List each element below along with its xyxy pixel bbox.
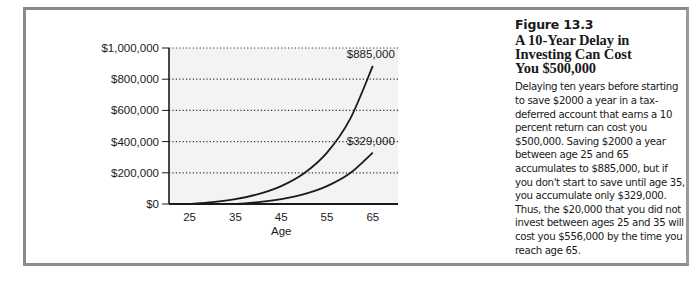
y-tick-label: $200,000	[111, 167, 159, 179]
x-tick-label: 55	[321, 211, 334, 223]
y-tick-label: $600,000	[111, 104, 159, 116]
y-tick-label: $400,000	[111, 136, 159, 148]
figure-title: A 10-Year Delay in Investing Can Cost Yo…	[515, 34, 685, 75]
plot-area	[169, 48, 398, 204]
x-tick-label: 45	[275, 211, 288, 223]
figure-body-text: Delaying ten years before starting to sa…	[515, 80, 685, 257]
figure-title-line: You $500,000	[515, 62, 685, 76]
x-tick-label: 65	[366, 211, 379, 223]
end-value-label: $329,000	[347, 135, 395, 147]
y-axis-ticks: $0$200,000$400,000$600,000$800,000$1,000…	[101, 42, 169, 210]
y-tick-label: $0	[146, 198, 159, 210]
figure-caption: Figure 13.3 A 10-Year Delay in Investing…	[515, 17, 685, 257]
end-value-label: $885,000	[347, 48, 395, 60]
figure-number: Figure 13.3	[515, 17, 685, 32]
x-tick-label: 35	[229, 211, 242, 223]
y-tick-label: $800,000	[111, 73, 159, 85]
x-tick-label: 25	[183, 211, 196, 223]
x-axis-label: Age	[271, 225, 291, 237]
y-tick-label: $1,000,000	[101, 42, 159, 54]
x-axis-ticks: 2535455565	[183, 211, 379, 223]
